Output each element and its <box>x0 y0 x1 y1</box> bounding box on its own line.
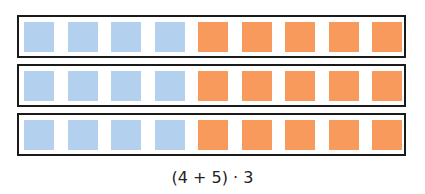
orange-square <box>198 22 228 52</box>
orange-square <box>285 120 315 150</box>
blue-square <box>111 120 141 150</box>
orange-square <box>242 22 272 52</box>
blue-square <box>24 71 54 101</box>
array-row <box>17 113 406 156</box>
blue-square <box>24 120 54 150</box>
blue-square <box>24 22 54 52</box>
orange-square <box>242 71 272 101</box>
expression-caption: (4 + 5) · 3 <box>0 168 425 187</box>
orange-square <box>372 71 402 101</box>
orange-square <box>198 120 228 150</box>
blue-square <box>68 120 98 150</box>
orange-square <box>372 22 402 52</box>
blue-square <box>111 71 141 101</box>
blue-square <box>155 22 185 52</box>
orange-square <box>285 71 315 101</box>
orange-square <box>329 22 359 52</box>
blue-square <box>68 22 98 52</box>
orange-square <box>285 22 315 52</box>
orange-square <box>329 120 359 150</box>
blue-square <box>68 71 98 101</box>
array-row <box>17 15 406 58</box>
orange-square <box>372 120 402 150</box>
orange-square <box>329 71 359 101</box>
blue-square <box>155 120 185 150</box>
blue-square <box>155 71 185 101</box>
orange-square <box>242 120 272 150</box>
blue-square <box>111 22 141 52</box>
array-row <box>17 64 406 107</box>
orange-square <box>198 71 228 101</box>
